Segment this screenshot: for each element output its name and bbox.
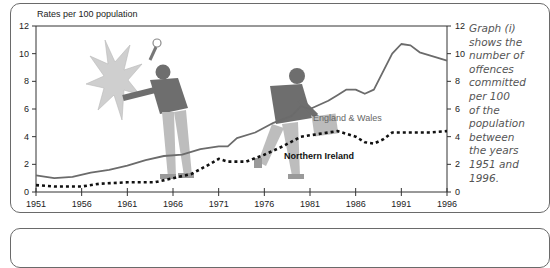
y-tick-right: 0 [455,187,460,197]
x-tick: 1986 [346,199,366,209]
x-tick: 1971 [209,199,229,209]
caption-line: the years [469,144,539,158]
x-tick: 1976 [254,199,274,209]
x-tick: 1951 [26,199,46,209]
burglar-illustration-right [254,68,338,179]
caption-line: number of [469,49,539,63]
caption-line: of the [469,104,539,118]
y-tick-right: 2 [455,159,460,169]
y-tick-right: 12 [455,21,465,31]
caption-line: Graph (i) [469,22,539,36]
caption-line: population [469,117,539,131]
y-tick-left: 4 [24,132,29,142]
caption-line: between [469,131,539,145]
caption-line: per 100 [469,90,539,104]
y-tick-left: 6 [24,104,29,114]
northern-ireland-line [36,131,447,186]
northern-ireland-label: Northern Ireland [284,151,354,161]
burglar-illustration-left [86,39,194,179]
x-tick: 1991 [391,199,411,209]
caption-line: committed [469,76,539,90]
y-tick-left: 2 [24,159,29,169]
x-tick: 1961 [117,199,137,209]
y-tick-left: 0 [24,187,29,197]
graph-caption: Graph (i)shows thenumber ofoffencescommi… [469,22,539,185]
england-wales-label: England & Wales [313,113,382,123]
x-tick: 1981 [300,199,320,209]
y-tick-left: 10 [19,49,29,59]
y-tick-left: 8 [24,76,29,86]
x-tick: 1966 [163,199,183,209]
y-tick-right: 10 [455,49,465,59]
caption-line: shows the [469,36,539,50]
y-tick-left: 12 [19,21,29,31]
y-tick-right: 6 [455,104,460,114]
caption-line: 1996. [469,172,539,186]
caption-line: offences [469,63,539,77]
y-tick-right: 4 [455,132,460,142]
y-tick-right: 8 [455,76,460,86]
axes: 0246810120246810121951195619611966197119… [19,21,465,209]
caption-line: 1951 and [469,158,539,172]
x-tick: 1996 [437,199,457,209]
x-tick: 1956 [72,199,92,209]
